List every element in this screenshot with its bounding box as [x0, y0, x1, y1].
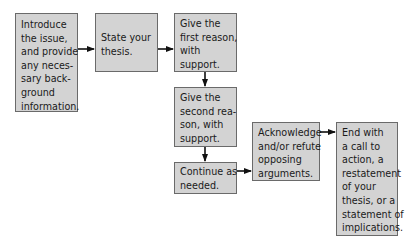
connector-arrows — [0, 0, 411, 245]
